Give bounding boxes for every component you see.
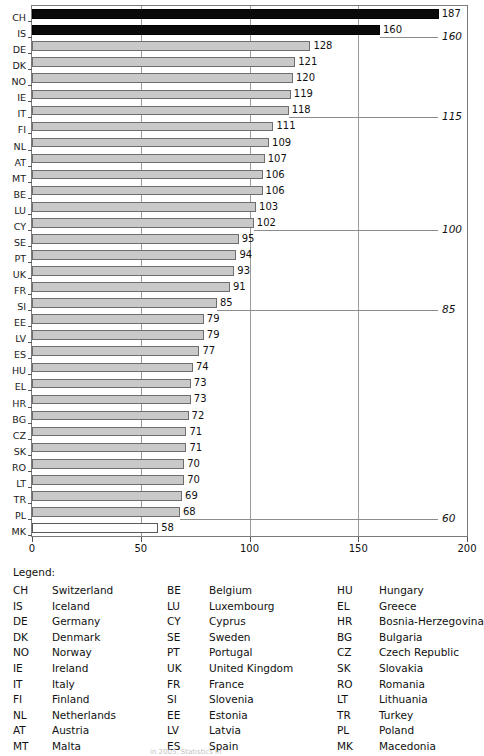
bar-value-el: 73 [194,377,207,388]
legend-code-si: SI [167,693,177,706]
bar-value-ee: 79 [207,313,220,324]
category-label-hr: HR [12,399,26,409]
x-tick-0 [32,537,33,542]
bar-value-es: 77 [202,345,215,356]
legend-name-at: Austria [52,724,89,737]
legend-code-hu: HU [337,584,353,597]
bar-be [32,186,263,196]
category-label-lv: LV [15,334,26,344]
legend-name-ch: Switzerland [52,584,113,597]
legend-name-ro: Romania [379,678,425,691]
category-label-lt: LT [16,479,26,489]
bar-value-it: 118 [292,104,311,115]
bar-value-ie: 119 [294,88,313,99]
legend-code-de: DE [13,615,28,628]
bar-value-mt: 106 [266,169,285,180]
legend-name-mt: Malta [52,740,81,753]
bar-uk [32,266,234,276]
bar-value-is: 160 [383,24,402,35]
category-label-el: EL [15,382,26,392]
category-tick [28,535,32,536]
legend-code-dk: DK [13,631,28,644]
category-label-cy: CY [14,222,26,232]
bar-es [32,346,199,356]
x-tick-100 [250,537,251,542]
legend-name-hu: Hungary [379,584,424,597]
bar-row: NL109 [32,134,467,150]
bar-el [32,379,191,389]
legend-code-ch: CH [13,584,28,597]
bar-ee [32,314,204,324]
annotation-label-85: 85 [442,303,455,315]
legend-code-lv: LV [167,724,179,737]
category-label-fr: FR [14,286,26,296]
bar-row: MT106 [32,167,467,183]
category-label-tr: TR [14,495,26,505]
bar-row: CY102 [32,215,467,231]
legend-name-el: Greece [379,600,416,613]
bar-value-de: 128 [313,40,332,51]
annotation-leader-line [289,117,438,118]
bar-ro [32,459,184,469]
annotation-100: 100 [254,230,438,231]
bar-value-dk: 121 [298,56,317,67]
annotation-leader-line [380,37,438,38]
bar-row: LV79 [32,327,467,343]
legend-title: Legend: [13,566,55,578]
category-label-mk: MK [12,527,26,537]
annotation-label-160: 160 [442,30,462,42]
legend-code-tr: TR [337,709,351,722]
legend-name-pt: Portugal [209,646,253,659]
legend-name-tr: Turkey [379,709,413,722]
legend-code-mt: MT [13,740,28,753]
bar-ie [32,90,291,100]
category-label-de: DE [13,45,26,55]
bar-row: MK58 [32,520,467,536]
bar-value-pt: 94 [239,249,252,260]
annotation-leader-line [254,230,438,231]
bar-value-hu: 74 [196,361,209,372]
legend-code-bg: BG [337,631,352,644]
legend-name-is: Iceland [52,600,90,613]
legend-name-uk: United Kingdom [209,662,293,675]
annotation-60: 60 [180,519,438,520]
bar-value-se: 95 [242,233,255,244]
legend-code-fi: FI [13,693,22,706]
legend-name-dk: Denmark [52,631,100,644]
x-tick-label-200: 200 [457,543,476,554]
category-label-se: SE [14,238,26,248]
bar-row: EE79 [32,311,467,327]
bar-lv [32,330,204,340]
bar-value-si: 85 [220,297,233,308]
annotation-160: 160 [380,37,438,38]
bar-tr [32,491,182,501]
bar-row: PL68 [32,504,467,520]
category-label-es: ES [14,350,26,360]
bar-row: BE106 [32,183,467,199]
bar-row: CZ71 [32,424,467,440]
annotation-leader-line [217,310,438,311]
bar-row: UK93 [32,263,467,279]
annotation-label-115: 115 [442,110,462,122]
category-label-ch: CH [12,13,26,23]
bar-lt [32,475,184,485]
bar-value-uk: 93 [237,265,250,276]
bar-value-lt: 70 [187,474,200,485]
legend-name-it: Italy [52,678,75,691]
legend-code-is: IS [13,600,23,613]
bar-it [32,106,289,116]
bar-row: FI111 [32,118,467,134]
bar-row: RO70 [32,456,467,472]
bar-value-tr: 69 [185,490,198,501]
annotation-label-60: 60 [442,512,455,524]
bar-row: IT118 [32,102,467,118]
x-tick-label-100: 100 [240,543,259,554]
annotation-label-100: 100 [442,223,462,235]
legend-code-sk: SK [337,662,351,675]
source-note: in 2005, Statistics in [150,748,221,756]
bar-is [32,25,380,35]
annotation-leader-line [180,519,438,520]
x-tick-50 [141,537,142,542]
legend-code-no: NO [13,646,29,659]
bar-bg [32,411,189,421]
